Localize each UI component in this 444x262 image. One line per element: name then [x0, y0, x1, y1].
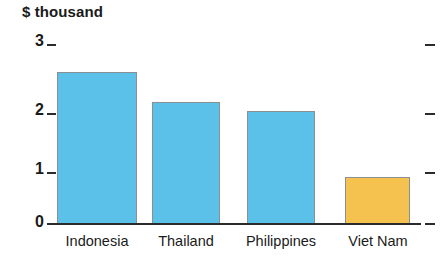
y-axis-tick-label-0: 0	[22, 213, 44, 231]
right-axis-tick-mark-1	[425, 172, 435, 174]
y-axis-unit-title: $ thousand	[22, 3, 103, 20]
x-axis-label-philippines: Philippines	[246, 233, 316, 249]
y-axis-tick-label-2: 2	[22, 101, 44, 119]
x-axis-baseline	[55, 223, 421, 225]
right-axis-tick-mark-3	[425, 44, 435, 46]
bar-indonesia	[57, 72, 137, 224]
right-axis-tick-mark-2	[425, 113, 435, 115]
x-axis-label-thailand: Thailand	[158, 233, 214, 249]
y-axis-tick-label-3: 3	[22, 32, 44, 50]
bar-philippines	[247, 111, 315, 224]
bar-thailand	[152, 102, 220, 224]
bar-chart: $ thousand 3 2 1 0 Indonesia Thailand Ph…	[0, 0, 444, 262]
bar-viet-nam	[345, 177, 410, 224]
right-axis-tick-mark-0	[425, 223, 435, 225]
y-axis-tick-label-1: 1	[22, 160, 44, 178]
plot-area	[55, 24, 420, 224]
x-axis-label-indonesia: Indonesia	[66, 233, 129, 249]
x-axis-label-viet-nam: Viet Nam	[348, 233, 407, 249]
